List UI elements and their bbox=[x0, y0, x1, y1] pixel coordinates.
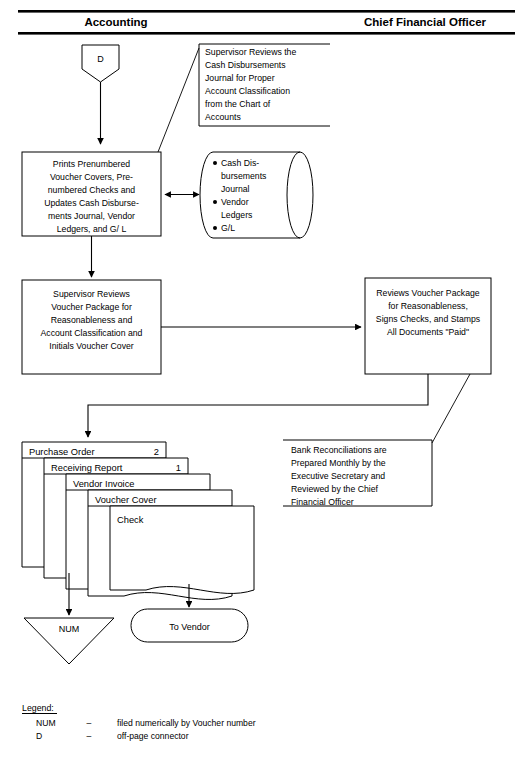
file-num-label: NUM bbox=[59, 624, 80, 634]
note-line: Bank Reconciliations are bbox=[291, 445, 387, 455]
legend-symbol: D bbox=[36, 731, 42, 741]
process-line: Initials Voucher Cover bbox=[49, 341, 134, 351]
datastore-item-line: bursements bbox=[221, 171, 267, 181]
legend: Legend: NUM – filed numerically by Vouch… bbox=[22, 703, 256, 741]
legend-symbol: NUM bbox=[36, 718, 56, 728]
process-prints-vouchers[interactable]: Prints Prenumbered Voucher Covers, Pre- … bbox=[22, 152, 161, 236]
note-bank-reconciliations-leader bbox=[432, 374, 470, 443]
note-bank-reconciliations: Bank Reconciliations are Prepared Monthl… bbox=[283, 374, 470, 507]
datastore-journals[interactable]: Cash Dis- bursements Journal Vendor Ledg… bbox=[200, 152, 313, 238]
datastore-item-line: Cash Dis- bbox=[221, 158, 259, 168]
note-line: Cash Disbursements bbox=[205, 60, 286, 70]
doc-copies: 2 bbox=[154, 447, 159, 457]
note-line: Prepared Monthly by the bbox=[291, 458, 386, 468]
note-line: from the Chart of bbox=[205, 99, 271, 109]
note-supervisor-review: Supervisor Reviews the Cash Disbursement… bbox=[158, 44, 330, 152]
process-line: Supervisor Reviews bbox=[53, 289, 130, 299]
terminator-to-vendor-label: To Vendor bbox=[169, 622, 210, 632]
process-line: Ledgers, and G/ L bbox=[57, 224, 127, 234]
process-line: Reviews Voucher Package bbox=[376, 288, 480, 298]
bullet-icon bbox=[213, 161, 217, 165]
doc-label: Check bbox=[117, 515, 144, 525]
doc-label: Voucher Cover bbox=[95, 495, 157, 505]
connector-cfo-to-documents bbox=[88, 374, 428, 437]
process-cfo-reviews[interactable]: Reviews Voucher Package for Reasonablene… bbox=[365, 278, 491, 374]
process-line: Prints Prenumbered bbox=[53, 159, 130, 169]
header-rule-top bbox=[18, 10, 515, 13]
process-line: Updates Cash Disburse- bbox=[44, 198, 139, 208]
process-line: Account Classification and bbox=[41, 328, 143, 338]
note-line: Account Classification bbox=[205, 86, 290, 96]
process-line: numbered Checks and bbox=[48, 185, 136, 195]
bullet-icon bbox=[213, 200, 217, 204]
lane-title-chief-financial-officer: Chief Financial Officer bbox=[364, 16, 487, 28]
doc-check[interactable]: Check bbox=[110, 506, 254, 593]
terminator-to-vendor[interactable]: To Vendor bbox=[131, 609, 248, 642]
note-line: Financial Officer bbox=[291, 497, 354, 507]
process-line: All Documents "Paid" bbox=[387, 327, 469, 337]
offpage-connector-d[interactable]: D bbox=[82, 45, 119, 82]
process-line: Signs Checks, and Stamps bbox=[376, 314, 481, 324]
legend-heading: Legend: bbox=[22, 703, 54, 713]
header-rule-bottom bbox=[18, 32, 515, 35]
flowchart-canvas: Accounting Chief Financial Officer D Sup… bbox=[0, 0, 531, 773]
lane-title-accounting: Accounting bbox=[84, 16, 147, 28]
process-line: for Reasonableness, bbox=[388, 301, 468, 311]
doc-label: Purchase Order bbox=[29, 447, 95, 457]
datastore-item-line: Vendor bbox=[221, 197, 249, 207]
doc-copies: 1 bbox=[176, 463, 181, 473]
note-supervisor-review-leader bbox=[158, 48, 199, 152]
legend-meaning: filed numerically by Voucher number bbox=[117, 718, 256, 728]
note-line: Supervisor Reviews the bbox=[205, 47, 296, 57]
lane-header: Accounting Chief Financial Officer bbox=[18, 10, 515, 35]
file-num[interactable]: NUM bbox=[24, 618, 114, 664]
legend-dash: – bbox=[87, 718, 92, 728]
legend-meaning: off-page connector bbox=[117, 731, 189, 741]
note-line: Journal for Proper bbox=[205, 73, 275, 83]
process-line: Voucher Covers, Pre- bbox=[50, 172, 133, 182]
legend-dash: – bbox=[87, 731, 92, 741]
doc-label: Receiving Report bbox=[51, 463, 123, 473]
bullet-icon bbox=[213, 226, 217, 230]
datastore-item-line: Ledgers bbox=[221, 210, 253, 220]
note-line: Executive Secretary and bbox=[291, 471, 385, 481]
doc-label: Vendor Invoice bbox=[73, 479, 135, 489]
process-line: Reasonableness and bbox=[51, 315, 133, 325]
datastore-item-line: Journal bbox=[221, 184, 250, 194]
process-line: ments Journal, Vendor bbox=[48, 211, 135, 221]
note-line: Reviewed by the Chief bbox=[291, 484, 379, 494]
offpage-connector-label: D bbox=[97, 54, 104, 64]
process-supervisor-reviews[interactable]: Supervisor Reviews Voucher Package for R… bbox=[22, 280, 161, 374]
process-line: Voucher Package for bbox=[51, 302, 132, 312]
note-line: Accounts bbox=[205, 112, 241, 122]
datastore-item-line: G/L bbox=[221, 223, 235, 233]
